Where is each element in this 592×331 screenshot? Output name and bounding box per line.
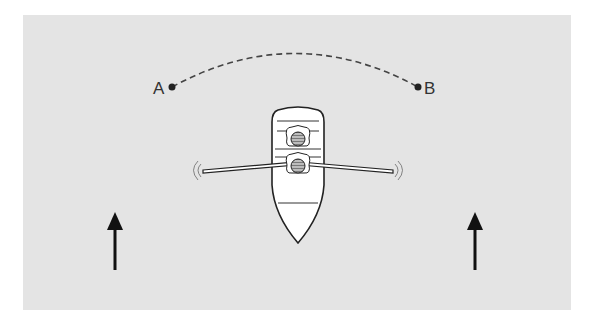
point-a-label: A [153,79,165,98]
rower-1-icon [286,126,310,147]
point-b-dot [415,84,422,91]
point-a-dot [169,84,176,91]
diagram-canvas: A B [0,0,592,331]
rower-2-icon [286,153,310,174]
point-b-label: B [424,79,435,98]
